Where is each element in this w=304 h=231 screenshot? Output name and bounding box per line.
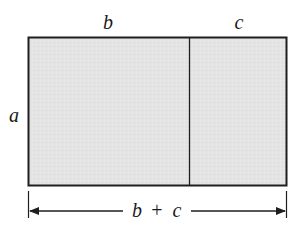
area-model-diagram: b c a b + c [0,0,304,231]
label-c-top: c [235,11,244,33]
label-b-top: b [103,11,113,33]
label-a-side: a [9,104,19,126]
region-c [190,38,287,186]
diagram-canvas: b c a b + c [0,0,304,231]
label-c-bottom: c [173,199,182,221]
region-b [29,38,190,186]
label-plus-bottom: + [151,199,162,221]
label-b-bottom: b [132,199,142,221]
